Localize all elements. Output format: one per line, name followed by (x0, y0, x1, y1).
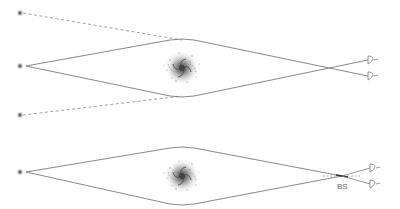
galaxy-lens-icon (164, 50, 201, 86)
galaxy-lens-icon (164, 158, 201, 194)
panel-bottom: BS (16, 147, 380, 205)
eye-icon (368, 56, 378, 64)
eye-icon (370, 164, 380, 172)
beam-splitter-label: BS (337, 182, 348, 191)
eye-icon (368, 72, 378, 80)
panel-top (16, 9, 378, 119)
star-icon (16, 9, 24, 17)
star-icon (16, 111, 24, 119)
dashed-ray-top (23, 13, 182, 40)
eye-icon (370, 180, 380, 188)
star-icon (16, 62, 24, 70)
lensing-diagram: BS (0, 0, 400, 209)
dashed-ray-bottom (23, 96, 182, 115)
star-icon (16, 168, 24, 176)
